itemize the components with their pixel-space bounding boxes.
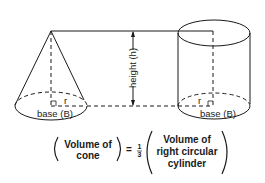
cylinder-radius-label: r [198,95,201,106]
formula-left-line1: Volume of [64,139,112,150]
formula-equals: = [126,144,132,155]
cone [15,31,87,120]
formula-right-line2: right circular [156,146,217,157]
fraction-denominator: 3 [138,151,142,158]
cone-base-label: base (B) [37,108,73,119]
arrowhead-up-icon [131,31,135,37]
cone-right-angle-mark [51,101,56,106]
left-paren-close [117,137,121,161]
volume-formula: Volume of cone = 1 3 Volume of right cir… [0,128,265,183]
arrowhead-down-icon [131,100,135,106]
formula-right-line1: Volume of [163,134,211,145]
cylinder [178,20,250,119]
cylinder-base-back-arc [178,93,250,106]
geometry-figure: r base (B) r base (B) height (h) [0,0,265,125]
formula-right-line3: cylinder [168,158,206,169]
right-paren-close [222,131,227,174]
cylinder-right-angle-mark [208,101,213,106]
cylinder-base-label: base (B) [200,108,236,119]
left-paren-open [55,137,59,161]
cone-right-slant [51,31,84,100]
cylinder-top-ellipse [178,20,250,46]
cone-radius-label: r [64,95,67,106]
formula-left-line2: cone [76,150,100,161]
right-paren-open [147,131,152,174]
height-label: height (h) [127,48,138,88]
fraction-numerator: 1 [138,143,142,150]
